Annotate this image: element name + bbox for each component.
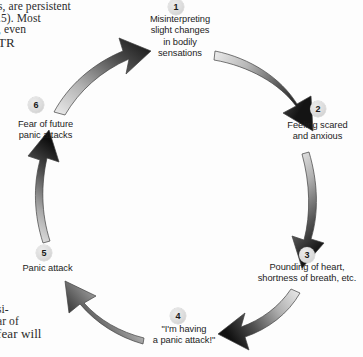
cycle-node-1-line-2: slight changes: [124, 25, 236, 36]
arrow-4-to-5: [65, 281, 144, 344]
node-badge-6: 6: [28, 97, 44, 113]
cycle-node-3: Pounding of heart, shortness of breath, …: [251, 262, 363, 285]
cycle-node-2: Feeling scared and anxious: [272, 120, 363, 143]
cycle-node-4: "I'm having a panic attack!": [138, 324, 230, 347]
arrow-5-to-6: [28, 130, 59, 243]
cycle-node-4-line-2: a panic attack!": [138, 335, 230, 346]
cycle-node-5: Panic attack: [6, 263, 89, 274]
node-badge-5: 5: [36, 245, 52, 261]
cycle-node-6-line-2: panic attacks: [0, 130, 91, 141]
arrow-1-to-2: [214, 51, 313, 131]
arrow-3-to-4: [218, 289, 300, 350]
diagram-page: s, are persistent .5). Most , even TR si…: [0, 0, 363, 357]
cycle-node-1-line-1: Misinterpreting: [124, 14, 236, 25]
cycle-node-1-line-4: sensations: [124, 48, 236, 59]
cycle-node-6-line-1: Fear of future: [0, 119, 91, 130]
cycle-node-3-line-1: Pounding of heart,: [251, 262, 363, 273]
node-badge-4: 4: [170, 308, 186, 324]
cycle-node-2-line-2: and anxious: [272, 131, 363, 142]
node-badge-2: 2: [310, 101, 326, 117]
node-badge-3: 3: [299, 247, 315, 263]
cycle-node-4-line-1: "I'm having: [138, 324, 230, 335]
cycle-node-1: Misinterpreting slight changes in bodily…: [124, 14, 236, 60]
cycle-node-6: Fear of future panic attacks: [0, 119, 91, 142]
cycle-node-1-line-3: in bodily: [124, 37, 236, 48]
cycle-node-3-line-2: shortness of breath, etc.: [251, 273, 363, 284]
cycle-node-5-line-1: Panic attack: [6, 263, 89, 274]
cycle-node-2-line-1: Feeling scared: [272, 120, 363, 131]
